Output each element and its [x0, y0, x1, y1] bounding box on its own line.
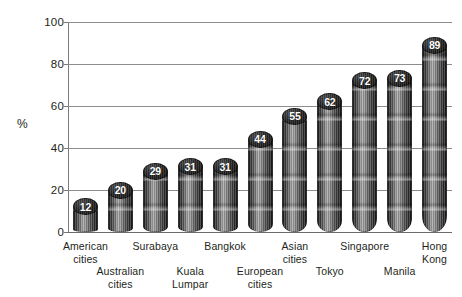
bar-9[interactable]: 73: [387, 70, 412, 232]
x-label-line: cities: [73, 253, 98, 265]
bar-body: [248, 140, 273, 232]
bar-value-label: 29: [150, 166, 161, 177]
x-axis-label-7: Tokyo: [294, 265, 366, 278]
bar-value-label: 31: [185, 162, 196, 173]
bar-body: [282, 117, 307, 233]
y-tick-label-60: 60: [36, 100, 64, 112]
y-tick-label-40: 40: [36, 142, 64, 154]
x-label-line: cities: [248, 278, 273, 290]
x-label-line: Kong: [422, 253, 447, 265]
bar-series: 1220293131445562727389: [68, 22, 452, 232]
x-label-line: European: [237, 265, 283, 277]
bar-chart: % 100806040200 1220293131445562727389 Am…: [0, 0, 462, 297]
bar-8[interactable]: 72: [352, 72, 377, 232]
bar-4[interactable]: 31: [213, 158, 238, 232]
bar-body: [178, 167, 203, 232]
bar-0[interactable]: 12: [73, 198, 98, 232]
x-label-line: Lumpar: [172, 278, 208, 290]
x-label-line: cities: [108, 278, 133, 290]
bar-2[interactable]: 29: [143, 163, 168, 232]
plot-area: 1220293131445562727389: [68, 22, 452, 232]
x-axis-label-2: Surabaya: [119, 240, 191, 253]
x-axis-label-0: Americancities: [49, 240, 121, 265]
bar-body: [213, 167, 238, 232]
x-label-line: Surabaya: [132, 240, 178, 252]
x-label-line: Singapore: [340, 240, 389, 252]
x-label-line: Hong: [422, 240, 448, 252]
x-label-line: Australian: [97, 265, 145, 277]
y-tick-label-80: 80: [36, 58, 64, 70]
bar-body: [143, 171, 168, 232]
bar-value-label: 62: [324, 97, 335, 108]
bar-cap: 89: [422, 37, 447, 54]
bar-body: [387, 79, 412, 232]
y-axis-title: %: [17, 117, 28, 131]
bar-body: [352, 81, 377, 232]
x-label-line: Kuala: [176, 265, 203, 277]
y-tick-label-20: 20: [36, 184, 64, 196]
bar-value-label: 31: [219, 162, 230, 173]
bar-3[interactable]: 31: [178, 158, 203, 232]
bar-body: [422, 45, 447, 232]
x-label-line: American: [63, 240, 108, 252]
x-axis-label-9: Manila: [364, 265, 436, 278]
x-axis-label-10: HongKong: [399, 240, 462, 265]
bar-body: [317, 102, 342, 232]
bar-7[interactable]: 62: [317, 93, 342, 232]
x-axis-label-6: Asiancities: [259, 240, 331, 265]
x-axis-category-labels: AmericancitiesAustraliancitiesSurabayaKu…: [0, 232, 462, 297]
bar-value-label: 44: [254, 134, 265, 145]
bar-6[interactable]: 55: [282, 108, 307, 232]
bar-1[interactable]: 20: [108, 182, 133, 233]
x-axis-label-4: Bangkok: [189, 240, 261, 253]
bar-5[interactable]: 44: [248, 131, 273, 232]
x-axis-label-1: Australiancities: [84, 265, 156, 290]
x-axis-label-5: Europeancities: [224, 265, 296, 290]
bar-value-label: 12: [80, 202, 91, 213]
x-axis-label-3: KualaLumpar: [154, 265, 226, 290]
bar-cap: 44: [248, 131, 273, 148]
bar-value-label: 73: [394, 73, 405, 84]
x-label-line: Tokyo: [316, 265, 344, 277]
bar-cap: 20: [108, 182, 133, 199]
bar-value-label: 72: [359, 76, 370, 87]
bar-value-label: 20: [115, 185, 126, 196]
bar-10[interactable]: 89: [422, 37, 447, 232]
x-label-line: Manila: [384, 265, 416, 277]
x-label-line: Bangkok: [204, 240, 246, 252]
bar-cap: 29: [143, 163, 168, 180]
x-label-line: Asian: [282, 240, 309, 252]
y-tick-label-100: 100: [36, 16, 64, 28]
bar-value-label: 89: [429, 40, 440, 51]
bar-value-label: 55: [289, 111, 300, 122]
x-axis-label-8: Singapore: [329, 240, 401, 253]
x-label-line: cities: [283, 253, 308, 265]
